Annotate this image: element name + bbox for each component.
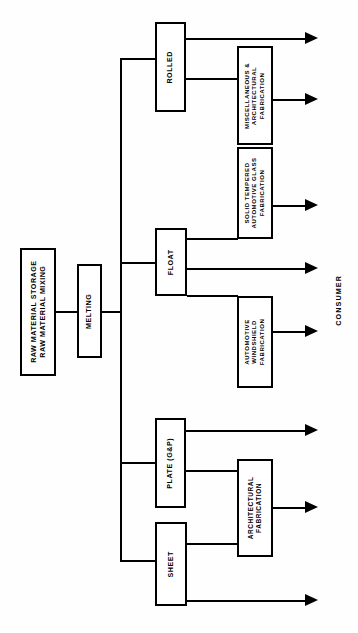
link-sheet-direct-output xyxy=(187,600,306,602)
link-plate-to-arch-fab xyxy=(186,470,238,472)
link-raw-to-melting xyxy=(56,311,77,313)
node-architectural-fabrication: ARCHITECTURAL FABRICATION xyxy=(237,459,273,557)
node-misc-arch-fabrication-label: MISCELLANEOUS & ARCHITECTURAL FABRICATIO… xyxy=(244,62,266,128)
arrow-plate-direct xyxy=(305,424,318,436)
link-float-to-windshield-fab xyxy=(187,295,238,297)
arrow-float-direct xyxy=(305,262,318,274)
node-plate-label: PLATE (G&P) xyxy=(166,438,175,489)
arrow-rolled-direct xyxy=(305,32,318,44)
link-windshield-fab-output xyxy=(273,331,306,333)
node-sheet: SHEET xyxy=(155,522,187,606)
node-raw-material: RAW MATERIAL STORAGE RAW MATERIAL MIXING xyxy=(20,248,56,376)
link-rolled-direct-output xyxy=(186,38,306,40)
node-plate: PLATE (G&P) xyxy=(155,418,186,508)
node-auto-windshield-fabrication-label: AUTOMOTIVE WINDSHIELD FABRICATION xyxy=(244,319,266,366)
link-bus-to-plate xyxy=(120,462,156,464)
link-melting-to-bus xyxy=(102,311,121,313)
node-architectural-fabrication-label: ARCHITECTURAL FABRICATION xyxy=(247,477,263,540)
flowchart-canvas: RAW MATERIAL STORAGE RAW MATERIAL MIXING… xyxy=(0,0,358,633)
link-plate-direct-output xyxy=(186,430,306,432)
node-melting: MELTING xyxy=(77,264,102,358)
link-float-to-tempered-fab xyxy=(187,238,238,240)
link-tempered-fab-output xyxy=(273,205,306,207)
node-misc-arch-fabrication: MISCELLANEOUS & ARCHITECTURAL FABRICATIO… xyxy=(237,46,273,145)
link-sheet-to-arch-fab xyxy=(187,543,238,545)
node-raw-material-label: RAW MATERIAL STORAGE RAW MATERIAL MIXING xyxy=(29,261,46,363)
link-rolled-to-misc-fab xyxy=(186,78,238,80)
link-float-direct-output xyxy=(187,268,306,270)
arrow-arch-fab xyxy=(305,501,318,513)
node-solid-tempered-fabrication: SOLID TEMPERED AUTOMOTIVE GLASS FABRICAT… xyxy=(237,147,273,239)
link-bus-to-float xyxy=(120,262,156,264)
node-rolled-label: ROLLED xyxy=(166,51,175,83)
arrow-windshield-fab xyxy=(305,325,318,337)
consumer-label: CONSUMER xyxy=(335,275,344,326)
node-auto-windshield-fabrication: AUTOMOTIVE WINDSHIELD FABRICATION xyxy=(237,296,273,388)
link-bus-to-rolled xyxy=(120,58,156,60)
link-arch-fab-output xyxy=(273,507,306,509)
distribution-bus xyxy=(120,58,122,561)
node-solid-tempered-fabrication-label: SOLID TEMPERED AUTOMOTIVE GLASS FABRICAT… xyxy=(244,157,266,228)
node-rolled: ROLLED xyxy=(155,22,186,112)
consumer-label-wrapper: CONSUMER xyxy=(322,250,356,350)
link-misc-fab-output xyxy=(273,99,306,101)
node-float-label: FLOAT xyxy=(167,249,176,275)
arrow-tempered-fab xyxy=(305,199,318,211)
node-melting-label: MELTING xyxy=(85,293,94,328)
link-bus-to-sheet xyxy=(120,560,156,562)
arrow-misc-fab xyxy=(305,93,318,105)
node-sheet-label: SHEET xyxy=(167,551,176,577)
arrow-sheet-direct xyxy=(305,594,318,606)
node-float: FLOAT xyxy=(155,228,187,296)
